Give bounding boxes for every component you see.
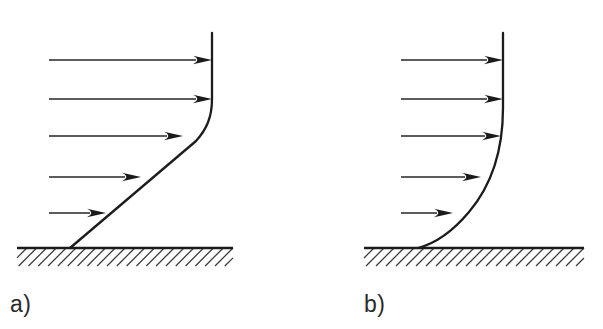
hatch-stroke	[195, 248, 213, 266]
velocity-arrow-b-2	[401, 95, 503, 103]
hatch-stroke	[156, 248, 174, 266]
hatch-stroke	[496, 248, 514, 266]
velocity-arrows-b	[401, 56, 503, 217]
panel-caption-b: b)	[364, 291, 385, 317]
hatch-stroke	[78, 248, 96, 266]
panel-b: b)	[301, 0, 603, 329]
hatch-stroke	[97, 248, 115, 266]
ground-hatching-b	[364, 248, 584, 266]
panel-a-diagram: a)	[0, 0, 302, 329]
hatch-stroke	[215, 248, 233, 266]
hatch-stroke	[376, 248, 394, 266]
velocity-arrow-a-2	[49, 95, 212, 103]
velocity-arrow-a-3	[49, 132, 183, 140]
velocity-arrows-a	[49, 56, 212, 217]
hatch-stroke	[87, 248, 105, 266]
hatch-stroke	[28, 248, 46, 266]
hatch-stroke	[166, 248, 184, 266]
ground-hatching-a	[17, 248, 233, 266]
hatch-stroke	[526, 248, 544, 266]
hatch-stroke	[536, 248, 554, 266]
velocity-arrow-a-4	[49, 173, 141, 181]
hatch-stroke	[476, 248, 494, 266]
hatch-stroke	[136, 248, 154, 266]
hatch-stroke	[48, 248, 66, 266]
panel-caption-a: a)	[10, 291, 31, 317]
velocity-arrow-b-4	[401, 173, 481, 181]
hatch-stroke	[186, 248, 204, 266]
hatch-stroke	[68, 248, 86, 266]
hatch-stroke	[546, 248, 564, 266]
hatch-stroke	[556, 248, 574, 266]
hatch-stroke	[386, 248, 404, 266]
velocity-arrow-b-3	[401, 132, 501, 140]
velocity-arrow-a-1	[49, 56, 212, 64]
hatch-stroke	[364, 248, 374, 258]
boundary-layer-figure: a) b)	[0, 0, 603, 329]
hatch-stroke	[225, 258, 233, 266]
velocity-arrow-b-5	[401, 209, 453, 217]
hatch-stroke	[396, 248, 414, 266]
hatch-stroke	[566, 248, 584, 266]
hatch-stroke	[366, 248, 384, 266]
hatch-stroke	[516, 248, 534, 266]
velocity-arrow-a-5	[49, 209, 106, 217]
hatch-stroke	[176, 248, 194, 266]
hatch-stroke	[117, 248, 135, 266]
hatch-stroke	[456, 248, 474, 266]
hatch-stroke	[58, 248, 76, 266]
hatch-stroke	[38, 248, 56, 266]
velocity-profile-curve-b	[418, 33, 503, 248]
hatch-stroke	[576, 258, 584, 266]
hatch-stroke	[506, 248, 524, 266]
hatch-stroke	[107, 248, 125, 266]
hatch-stroke	[17, 248, 27, 258]
hatch-stroke	[127, 248, 145, 266]
hatch-stroke	[406, 248, 424, 266]
velocity-arrow-b-1	[401, 56, 503, 64]
panel-a: a)	[0, 0, 302, 329]
hatch-stroke	[205, 248, 223, 266]
hatch-stroke	[486, 248, 504, 266]
hatch-stroke	[436, 248, 454, 266]
hatch-stroke	[466, 248, 484, 266]
hatch-stroke	[19, 248, 37, 266]
hatch-stroke	[446, 248, 464, 266]
hatch-stroke	[416, 248, 434, 266]
panel-b-diagram: b)	[301, 0, 603, 329]
hatch-stroke	[146, 248, 164, 266]
hatch-stroke	[426, 248, 444, 266]
